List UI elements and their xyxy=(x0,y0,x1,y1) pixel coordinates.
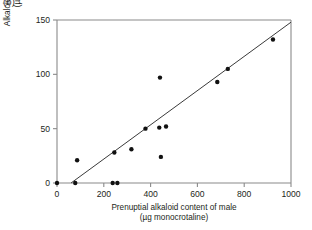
data-point xyxy=(110,181,114,185)
data-point xyxy=(112,150,116,154)
data-point xyxy=(115,181,119,185)
data-point xyxy=(129,147,133,151)
axes-frame xyxy=(57,20,291,183)
data-point xyxy=(73,181,77,185)
data-points xyxy=(55,37,275,185)
data-point xyxy=(75,158,79,162)
regression-line xyxy=(71,22,291,183)
scatter-plot xyxy=(0,0,312,230)
data-point xyxy=(55,181,59,185)
regression-line-segment xyxy=(71,22,291,183)
data-point xyxy=(159,155,163,159)
data-point xyxy=(157,125,161,129)
data-point xyxy=(215,80,219,84)
data-point xyxy=(271,37,275,41)
data-point xyxy=(164,124,168,128)
figure-panel-b: (b) Alkaloid transferred to female (µg m… xyxy=(0,0,312,230)
data-point xyxy=(143,126,147,130)
data-point xyxy=(158,75,162,79)
tick-marks xyxy=(53,20,291,187)
data-point xyxy=(226,67,230,71)
